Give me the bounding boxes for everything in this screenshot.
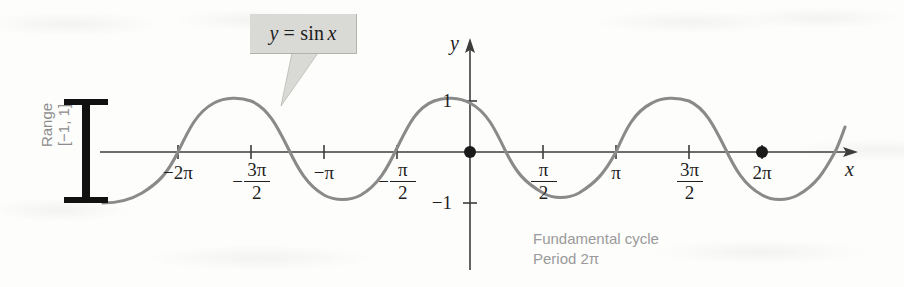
range-annotation-line1: Range xyxy=(38,67,55,183)
x-tick-label-pi: π xyxy=(581,163,651,182)
range-annotation-line2: [−1, 1] xyxy=(55,67,72,183)
fraction-sign: − xyxy=(232,172,244,191)
equation-lhs: y xyxy=(269,22,278,45)
equation-equals: = xyxy=(279,22,301,45)
figure-caption: Fundamental cycle Period 2π xyxy=(533,229,659,269)
fraction-denominator: 2 xyxy=(536,183,552,203)
equation-callout: y = sin x xyxy=(250,14,357,54)
equation-function-name: sin xyxy=(300,22,324,45)
x-tick-label-neg-pi-over-2: − π 2 xyxy=(360,160,434,203)
fraction-denominator: 2 xyxy=(395,183,411,203)
fraction-sign: − xyxy=(378,172,390,191)
caption-line-fundamental-cycle: Fundamental cycle xyxy=(533,229,659,249)
fraction-numerator: 3π xyxy=(677,160,702,180)
caption-line-period: Period 2π xyxy=(533,249,659,269)
x-axis xyxy=(100,147,858,157)
x-tick-label-neg-pi: −π xyxy=(289,163,359,182)
range-annotation: Range [−1, 1] xyxy=(38,67,72,183)
x-tick-label-3pi-over-2: 3π 2 xyxy=(652,160,726,203)
sine-graph-figure: y = sin x Range [−1, 1] y x 1 −1 −2π − 3… xyxy=(0,0,904,287)
fraction-numerator: π xyxy=(536,160,552,180)
y-axis-label: y xyxy=(450,32,459,55)
fraction-numerator: π xyxy=(395,160,411,180)
x-tick-label-pi-over-2: π 2 xyxy=(506,160,580,203)
x-axis-label: x xyxy=(845,158,854,181)
fraction-numerator: 3π xyxy=(244,160,269,180)
fraction-denominator: 2 xyxy=(249,183,265,203)
x-tick-label-2pi: 2π xyxy=(727,163,797,182)
x-tick-label-neg-2pi: −2π xyxy=(143,163,213,182)
y-tick-label-1: 1 xyxy=(428,90,452,112)
callout-pointer xyxy=(281,53,318,106)
fraction-denominator: 2 xyxy=(682,183,698,203)
equation-variable: x xyxy=(324,22,336,45)
x-tick-label-neg-3pi-over-2: − 3π 2 xyxy=(214,160,288,203)
